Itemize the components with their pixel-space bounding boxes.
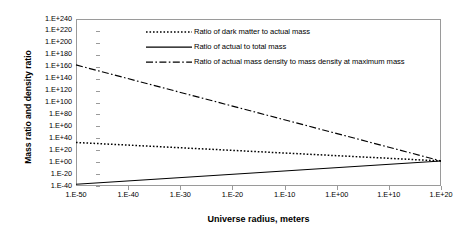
x-axis-tick-label: 1.E-30 (150, 190, 210, 199)
x-axis-title: Universe radius, meters (76, 214, 441, 224)
x-axis-tick-label: 1.E+10 (359, 190, 419, 199)
legend-label: Ratio of actual mass density to mass den… (194, 57, 405, 66)
y-axis-tick-mark (96, 67, 100, 68)
y-axis-tick-mark (96, 186, 100, 187)
legend-item: Ratio of actual mass density to mass den… (146, 54, 436, 69)
y-axis-tick-mark (96, 162, 100, 163)
y-axis-tick-mark (96, 150, 100, 151)
legend-label: Ratio of actual to total mass (194, 42, 286, 51)
legend-item: Ratio of actual to total mass (146, 39, 436, 54)
legend-item: Ratio of dark matter to actual mass (146, 24, 436, 39)
x-axis-tick-label: 1.E+00 (307, 190, 367, 199)
legend-line-swatch-dotted (146, 27, 194, 37)
y-axis-tick-mark (96, 55, 100, 56)
x-axis-tick-mark (389, 186, 390, 190)
y-axis-tick-mark (96, 19, 100, 20)
series-line (76, 142, 441, 160)
x-axis-tick-label: 1.E-50 (46, 190, 106, 199)
x-axis-tick-mark (128, 186, 129, 190)
x-axis-tick-label: 1.E+20 (411, 190, 470, 199)
y-axis-tick-mark (96, 43, 100, 44)
y-axis-tick-mark (96, 174, 100, 175)
y-axis-title: Mass ratio and density ratio (23, 22, 33, 192)
y-axis-tick-mark (96, 79, 100, 80)
x-axis-tick-label: 1.E-20 (202, 190, 262, 199)
series-line (76, 65, 441, 161)
y-axis-tick-mark (96, 126, 100, 127)
legend-line-swatch-dash-dot (146, 57, 194, 67)
y-axis-tick-mark (96, 114, 100, 115)
x-axis-tick-mark (180, 186, 181, 190)
x-axis-tick-mark (441, 186, 442, 190)
y-axis-tick-mark (96, 31, 100, 32)
series-line (76, 161, 441, 184)
x-axis-tick-mark (232, 186, 233, 190)
y-axis-tick-mark (96, 138, 100, 139)
x-axis-tick-label: 1.E-10 (255, 190, 315, 199)
y-axis-tick-mark (96, 103, 100, 104)
x-axis-tick-label: 1.E-40 (98, 190, 158, 199)
y-axis-tick-mark (96, 91, 100, 92)
chart-legend: Ratio of dark matter to actual massRatio… (146, 24, 436, 69)
x-axis-tick-mark (285, 186, 286, 190)
x-axis-tick-mark (337, 186, 338, 190)
legend-line-swatch-solid (146, 42, 194, 52)
legend-label: Ratio of dark matter to actual mass (194, 27, 310, 36)
chart-container: 1.E+2401.E+2201.E+2001.E+1801.E+1601.E+1… (0, 0, 470, 240)
